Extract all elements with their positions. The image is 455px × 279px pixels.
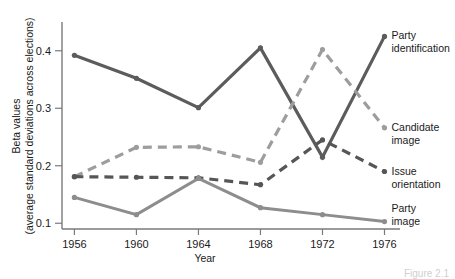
series-label-line2: image	[391, 215, 420, 227]
series-marker	[258, 45, 263, 50]
series-label-line2: image	[391, 134, 420, 146]
figure-caption: Figure 2.1	[404, 268, 449, 279]
series-marker	[320, 212, 325, 217]
y-tick-label: 0.2	[36, 160, 51, 172]
x-tick-label: 1972	[310, 238, 334, 250]
axes-layer	[62, 22, 400, 229]
series-marker	[258, 205, 263, 210]
series-marker	[134, 175, 139, 180]
series-label-line1: Party	[391, 202, 416, 214]
x-tick-label: 1968	[248, 238, 272, 250]
series-marker	[196, 176, 201, 181]
x-tick-label: 1976	[372, 238, 396, 250]
series-marker	[72, 53, 77, 58]
x-ticks-layer: 195619601964196819721976	[62, 229, 397, 250]
series-marker	[320, 155, 325, 160]
series-label-line2: identification	[391, 42, 450, 54]
y-tick-label: 0.4	[36, 45, 51, 57]
series-label-line1: Party	[391, 29, 416, 41]
y-axis-title-line2: (average standard deviations across elec…	[23, 17, 35, 234]
series-line-candidate-image	[74, 50, 384, 177]
x-tick-label: 1964	[186, 238, 210, 250]
series-label-line2: orientation	[391, 178, 440, 190]
series-marker	[382, 125, 387, 130]
series-line-issue-orientation	[74, 140, 384, 185]
series-marker	[196, 105, 201, 110]
series-label-party-image: Partyimage	[391, 202, 420, 227]
series-marker	[196, 144, 201, 149]
series-layer	[72, 34, 387, 224]
y-tick-label: 0.1	[36, 217, 51, 229]
series-label-party-identification: Partyidentification	[391, 29, 450, 54]
x-tick-label: 1960	[124, 238, 148, 250]
series-line-party-image	[74, 178, 384, 221]
series-marker	[134, 76, 139, 81]
series-marker	[134, 145, 139, 150]
series-line-party-identification	[74, 36, 384, 157]
series-marker	[72, 195, 77, 200]
series-label-candidate-image: Candidateimage	[391, 121, 439, 146]
series-label-line1: Issue	[391, 165, 416, 177]
series-marker	[382, 34, 387, 39]
series-marker	[258, 182, 263, 187]
series-marker	[320, 47, 325, 52]
series-marker	[382, 219, 387, 224]
series-marker	[258, 160, 263, 165]
y-tick-label: 0.3	[36, 102, 51, 114]
series-label-line1: Candidate	[391, 121, 439, 133]
x-tick-label: 1956	[62, 238, 86, 250]
series-marker	[320, 137, 325, 142]
y-axis-title-line1: Beta values	[10, 99, 22, 154]
x-axis-title: Year	[194, 252, 216, 264]
series-marker	[72, 174, 77, 179]
series-marker	[382, 169, 387, 174]
series-label-issue-orientation: Issueorientation	[391, 165, 440, 190]
series-labels-layer: PartyidentificationCandidateimageIssueor…	[391, 29, 450, 226]
series-marker	[134, 212, 139, 217]
y-ticks-layer: 0.10.20.30.4	[36, 45, 62, 230]
